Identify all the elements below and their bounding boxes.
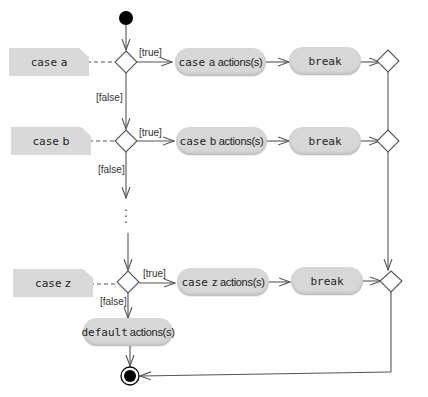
action-break-b: break xyxy=(289,127,361,155)
action-keyword: case xyxy=(180,135,207,148)
initial-node-icon xyxy=(119,11,133,25)
guard-false-b: [false] xyxy=(98,164,125,175)
note-value: z xyxy=(65,277,71,290)
guard-false-a: [false] xyxy=(96,92,123,103)
action-text: a actions(s) xyxy=(209,56,262,68)
action-case-a: casea actions(s) xyxy=(175,48,266,76)
merge-diamond-z xyxy=(380,271,402,292)
guard-true-z: [true] xyxy=(143,268,166,279)
action-default: defaultactions(s) xyxy=(83,318,173,346)
note-keyword: case xyxy=(31,56,58,69)
merge-diamond-a xyxy=(377,50,399,72)
note-value: b xyxy=(63,135,70,148)
break-keyword: break xyxy=(308,55,341,68)
action-case-z: casez actions(s) xyxy=(177,268,269,296)
switch-activity-diagram: case a case b case z [true] [false] [tru… xyxy=(0,0,428,397)
action-keyword: case xyxy=(181,276,208,289)
note-case-a: case a xyxy=(9,48,89,76)
default-keyword: default xyxy=(81,326,127,339)
note-value: a xyxy=(61,56,68,69)
ellipsis: ··· xyxy=(124,208,128,226)
action-break-a: break xyxy=(289,47,361,75)
action-text: b actions(s) xyxy=(210,135,263,147)
guard-true-a: [true] xyxy=(139,47,162,58)
guard-true-b: [true] xyxy=(139,127,162,138)
action-break-z: break xyxy=(291,267,363,295)
note-keyword: case xyxy=(35,277,62,290)
decision-diamond-z xyxy=(117,271,139,293)
note-keyword: case xyxy=(33,135,60,148)
decision-diamond-b xyxy=(115,130,137,152)
action-text: z actions(s) xyxy=(212,276,265,288)
break-keyword: break xyxy=(310,275,343,288)
note-case-z: case z xyxy=(13,269,93,297)
break-keyword: break xyxy=(308,135,341,148)
action-case-b: caseb actions(s) xyxy=(176,127,267,155)
note-case-b: case b xyxy=(11,127,91,155)
decision-diamond-a xyxy=(115,51,137,73)
guard-false-z: [false] xyxy=(100,296,127,307)
action-keyword: case xyxy=(179,56,206,69)
default-text: actions(s) xyxy=(130,326,175,338)
merge-diamond-b xyxy=(377,130,399,152)
